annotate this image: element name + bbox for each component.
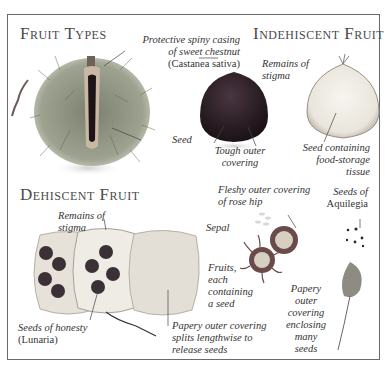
label-seeds-of-honesty: Seeds of honesty (Lunaria) (18, 322, 87, 346)
chestnut-nut-illustration (200, 72, 268, 150)
halved-nut-illustration (307, 54, 379, 138)
label-seeds-of-aquilegia: Seeds of Aquilegia (318, 186, 368, 210)
title-fruit-types: Fruit Types (20, 25, 107, 42)
label-fleshy-outer-covering: Fleshy outer covering of rose hip (218, 184, 310, 208)
title-indehiscent-fruit: Indehiscent Fruit (253, 25, 384, 42)
label-papery-outer-covering: Papery outer covering splits lengthwise … (172, 320, 266, 356)
label-aquilegia-papery-covering: Papery outer covering enclosing many see… (276, 283, 336, 355)
label-chestnut-seed: Seed (172, 134, 192, 146)
label-seed-food-storage: Seed containing food-storage tissue (295, 142, 370, 178)
label-indehiscent-stigma: Remains of stigma (262, 58, 309, 82)
title-dehiscent-fruit: Dehiscent Fruit (20, 186, 139, 203)
aquilegia-illustration (338, 227, 364, 350)
label-chestnut-casing: Protective spiny casing of sweet chestnu… (128, 34, 240, 70)
label-fruits-each-containing: Fruits, each containing a seed (208, 262, 253, 310)
label-sepal: Sepal (206, 222, 229, 234)
label-dehiscent-stigma: Remains of stigma (58, 210, 105, 234)
label-tough-outer-covering: Tough outer covering (205, 145, 275, 169)
chestnut-casing-illustration (12, 56, 155, 176)
